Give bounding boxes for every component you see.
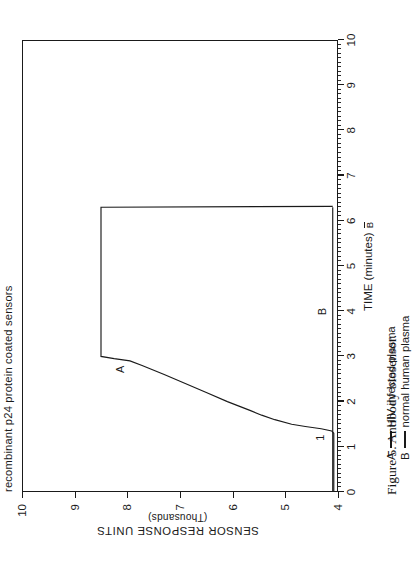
chart-stage: recombinant p24 protein coated sensors A… [0, 0, 418, 580]
x-minor-tick [338, 107, 341, 108]
x-minor-tick [338, 143, 341, 144]
plot-title: recombinant p24 protein coated sensors [2, 40, 14, 492]
x-minor-tick [338, 360, 341, 361]
x-minor-tick [338, 459, 341, 460]
x-minor-tick [338, 152, 341, 153]
x-minor-tick [338, 373, 341, 374]
x-minor-tick [338, 166, 341, 167]
x-minor-tick [338, 202, 341, 203]
x-minor-tick [338, 369, 341, 370]
x-minor-tick [338, 147, 341, 148]
x-tick [338, 174, 344, 175]
x-tick [338, 355, 344, 356]
y-tick-label: 10 [16, 504, 28, 517]
y-tick [338, 492, 339, 498]
x-minor-tick [338, 120, 341, 121]
x-minor-tick [338, 215, 341, 216]
x-minor-tick [338, 441, 341, 442]
x-minor-tick [338, 319, 341, 320]
x-tick-label: 0 [345, 489, 357, 495]
x-axis-fraction: B [364, 222, 375, 228]
x-minor-tick [338, 455, 341, 456]
x-minor-tick [338, 333, 341, 334]
x-minor-tick [338, 378, 341, 379]
x-minor-tick [338, 437, 341, 438]
x-minor-tick [338, 324, 341, 325]
x-minor-tick [338, 473, 341, 474]
x-minor-tick [338, 62, 341, 63]
x-minor-tick [338, 468, 341, 469]
y-tick [75, 492, 76, 498]
x-minor-tick [338, 229, 341, 230]
y-tick-label: 5 [279, 504, 291, 510]
x-minor-tick [338, 274, 341, 275]
x-minor-tick [338, 392, 341, 393]
x-tick [338, 446, 344, 447]
x-minor-tick [338, 337, 341, 338]
x-minor-tick [338, 161, 341, 162]
curve-b-label: B [316, 308, 328, 315]
y-tick-label: 6 [227, 504, 239, 510]
x-minor-tick [338, 233, 341, 234]
x-tick-label: 9 [345, 82, 357, 88]
x-minor-tick [338, 423, 341, 424]
figure-caption: Figure 5. Antibody biosensor. [384, 250, 400, 580]
x-minor-tick [338, 193, 341, 194]
x-tick [338, 84, 344, 85]
x-tick [338, 400, 344, 401]
x-minor-tick [338, 288, 341, 289]
x-minor-tick [338, 306, 341, 307]
x-tick-label: 1 [345, 444, 357, 450]
figure-page: recombinant p24 protein coated sensors A… [0, 0, 418, 580]
y-tick [285, 492, 286, 498]
x-minor-tick [338, 414, 341, 415]
x-tick-label: 4 [345, 308, 357, 314]
x-tick [338, 39, 344, 40]
x-minor-tick [338, 66, 341, 67]
x-minor-tick [338, 57, 341, 58]
y-axis-title-sub: (Thousands) [148, 512, 207, 523]
x-minor-tick [338, 44, 341, 45]
x-axis-title-main: TIME [362, 284, 374, 311]
x-minor-tick [338, 283, 341, 284]
caption-wrap: Figure 5. Antibody biosensor. [384, 250, 414, 580]
x-minor-tick [338, 238, 341, 239]
x-minor-tick [338, 315, 341, 316]
x-minor-tick [338, 48, 341, 49]
x-minor-tick [338, 53, 341, 54]
x-minor-tick [338, 102, 341, 103]
x-minor-tick [338, 111, 341, 112]
x-minor-tick [338, 179, 341, 180]
x-minor-tick [338, 383, 341, 384]
x-minor-tick [338, 157, 341, 158]
x-minor-tick [338, 405, 341, 406]
x-tick-label: 8 [345, 127, 357, 133]
x-minor-tick [338, 301, 341, 302]
x-minor-tick [338, 75, 341, 76]
x-tick-label: 2 [345, 398, 357, 404]
x-minor-tick [338, 251, 341, 252]
x-minor-tick [338, 80, 341, 81]
x-minor-tick [338, 197, 341, 198]
x-minor-tick [338, 410, 341, 411]
x-minor-tick [338, 432, 341, 433]
x-minor-tick [338, 342, 341, 343]
x-minor-tick [338, 351, 341, 352]
y-tick-label: 7 [174, 504, 186, 510]
x-minor-tick [338, 116, 341, 117]
x-minor-tick [338, 279, 341, 280]
x-axis-fraction-denominator: B [364, 222, 375, 228]
curve-a-path [101, 206, 334, 492]
x-minor-tick [338, 482, 341, 483]
x-minor-tick [338, 211, 341, 212]
x-minor-tick [338, 464, 341, 465]
x-minor-tick [338, 89, 341, 90]
x-tick [338, 265, 344, 266]
x-minor-tick [338, 98, 341, 99]
x-minor-tick [338, 256, 341, 257]
y-tick [233, 492, 234, 498]
x-tick-label: 6 [345, 218, 357, 224]
x-tick [338, 220, 344, 221]
data-layer [22, 40, 338, 492]
y-tick-label: 9 [69, 504, 81, 510]
